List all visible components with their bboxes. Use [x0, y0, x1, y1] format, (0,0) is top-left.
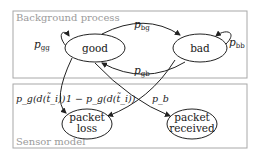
packet-loss-line2: loss [77, 122, 97, 134]
edge-good-to-packet-loss [60, 58, 72, 113]
label-bad-to-loss: p_b [152, 93, 169, 105]
label-p-bg: pbg [134, 18, 150, 32]
label-p-gg: pgg [34, 38, 50, 52]
edge-good-to-packet-received [95, 63, 170, 116]
label-p-gb: pgb [134, 64, 150, 78]
state-good-label: good [82, 42, 108, 54]
packet-received-line2: received [169, 122, 215, 134]
label-good-to-received: 1 − p_g(d(t̃_i)) [66, 92, 136, 105]
edge-bad-to-packet-loss [108, 60, 175, 116]
label-p-bb: pbb [229, 36, 245, 50]
background-process-label: Background process [16, 12, 120, 23]
state-bad-label: bad [190, 42, 210, 54]
label-good-to-loss: p_g(d(t̃_i)) [16, 92, 66, 105]
markov-sensor-diagram: Background process Sensor model good bad… [0, 0, 257, 158]
